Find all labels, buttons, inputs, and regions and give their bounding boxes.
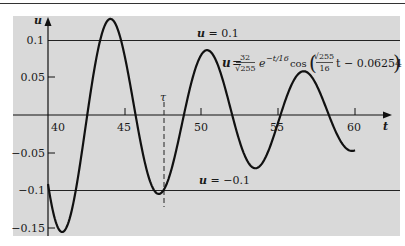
svg-text:u: u xyxy=(222,56,231,70)
x-ticks: 40 45 50 55 60 xyxy=(51,108,361,134)
svg-text:32: 32 xyxy=(240,53,250,62)
x-tick-label: 40 xyxy=(51,121,65,134)
x-axis-arrow-icon xyxy=(383,112,392,119)
svg-text:16: 16 xyxy=(319,64,329,73)
y-tick-label: −0.05 xyxy=(11,147,45,160)
x-axis-label: t xyxy=(383,120,388,133)
tau-label: τ xyxy=(160,91,167,104)
lower-line-label: u = −0.1 xyxy=(199,174,250,187)
y-tick-label: −0.15 xyxy=(11,222,45,235)
upper-line-label: u = 0.1 xyxy=(197,27,239,40)
svg-text:e: e xyxy=(259,57,266,70)
x-tick-label: 45 xyxy=(117,121,131,134)
y-axis-arrow-icon xyxy=(45,17,52,26)
svg-text:cos: cos xyxy=(290,58,307,69)
svg-text:−t/16: −t/16 xyxy=(266,54,289,63)
y-tick-label: 0.05 xyxy=(21,71,46,84)
equation-annotation: u = 32 √255 e −t/16 cos ( √255 16 t − 0.… xyxy=(222,51,402,75)
x-tick-label: 60 xyxy=(347,121,361,134)
x-tick-label: 50 xyxy=(194,121,208,134)
chart: u t 0.1 0.05 −0.05 −0.1 −0.15 40 45 50 5… xyxy=(0,0,405,246)
svg-text:√255: √255 xyxy=(235,64,255,73)
y-tick-label: 0.1 xyxy=(27,34,45,47)
y-axis-label: u xyxy=(34,14,42,27)
svg-text:): ) xyxy=(393,51,401,75)
svg-text:√255: √255 xyxy=(314,52,334,61)
y-tick-label: −0.1 xyxy=(18,184,45,197)
